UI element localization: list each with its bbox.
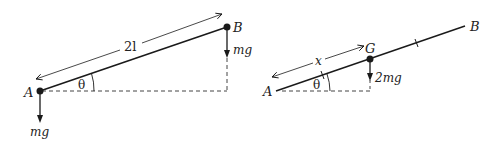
distance-label: x <box>315 54 322 68</box>
distance-dimension-arrow-icon <box>272 63 313 77</box>
force-b-label: mg <box>233 43 252 57</box>
angle-label: θ <box>78 78 85 92</box>
angle-arc-icon <box>327 74 330 91</box>
force-a-label: mg <box>30 125 49 139</box>
angle-label: θ <box>313 78 320 92</box>
point-b-label: B <box>232 20 243 35</box>
point-a-label: A <box>23 85 33 100</box>
length-dimension-arrow-icon <box>142 14 222 43</box>
point-g-label: G <box>365 41 375 56</box>
length-label: 2l <box>124 39 136 54</box>
rod-ab <box>40 27 227 91</box>
right-diagram: A B G x θ 2mg <box>262 19 480 99</box>
point-b-label: B <box>469 19 480 34</box>
angle-arc-icon <box>92 74 95 92</box>
diagram-canvas: A B 2l θ mg mg A B G x θ 2mg <box>0 0 498 146</box>
distance-dimension-arrow-icon <box>325 46 364 59</box>
left-diagram: A B 2l θ mg mg <box>23 14 252 139</box>
point-a-label: A <box>262 84 272 99</box>
force-g-label: 2mg <box>374 71 402 85</box>
length-dimension-arrow-icon <box>36 50 120 79</box>
